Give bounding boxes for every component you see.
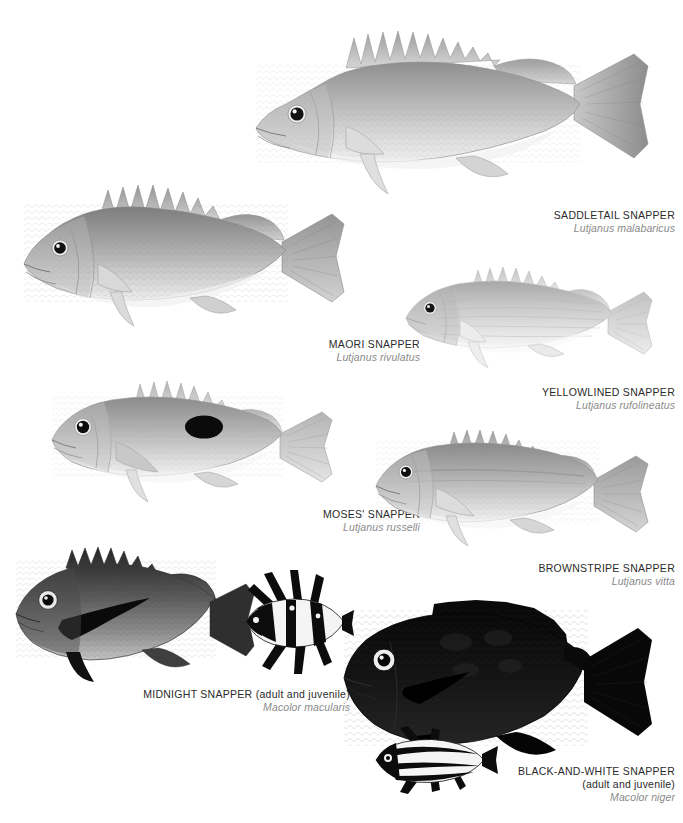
label-midnight-snapper: MIDNIGHT SNAPPER (adult and juvenile) Ma… xyxy=(60,688,350,714)
label-brownstripe-snapper: BROWNSTRIPE SNAPPER Lutjanus vitta xyxy=(415,562,675,588)
common-name-saddletail-snapper: SADDLETAIL SNAPPER xyxy=(415,209,675,222)
common-name-yellowlined-snapper: YELLOWLINED SNAPPER xyxy=(415,386,675,399)
scientific-name-midnight-snapper: Macolor macularis xyxy=(60,701,350,714)
flank-spot-moses-snapper xyxy=(185,416,223,439)
common-name-midnight-snapper: MIDNIGHT SNAPPER (adult and juvenile) xyxy=(60,688,350,701)
fish-illustration-yellowlined-snapper xyxy=(400,256,668,376)
label-saddletail-snapper: SADDLETAIL SNAPPER Lutjanus malabaricus xyxy=(415,209,675,235)
label-yellowlined-snapper: YELLOWLINED SNAPPER Lutjanus rufolineatu… xyxy=(415,386,675,412)
common-name-brownstripe-snapper: BROWNSTRIPE SNAPPER xyxy=(415,562,675,575)
scientific-name-yellowlined-snapper: Lutjanus rufolineatus xyxy=(415,399,675,412)
label-black-and-white-snapper: BLACK-AND-WHITE SNAPPER (adult and juven… xyxy=(395,765,675,804)
fish-illustration-maori-snapper xyxy=(18,172,368,332)
label-maori-snapper: MAORI SNAPPER Lutjanus rivulatus xyxy=(160,338,420,364)
fish-illustration-brownstripe-snapper xyxy=(370,422,670,552)
fish-identification-plate: SADDLETAIL SNAPPER Lutjanus malabaricus xyxy=(0,0,683,823)
fish-illustration-moses-snapper xyxy=(46,372,358,512)
common-name-maori-snapper: MAORI SNAPPER xyxy=(160,338,420,351)
scientific-name-maori-snapper: Lutjanus rivulatus xyxy=(160,351,420,364)
qualifier-black-and-white-snapper: (adult and juvenile) xyxy=(395,778,675,791)
scientific-name-black-and-white-snapper: Macolor niger xyxy=(395,791,675,804)
fish-illustration-midnight-snapper-adult xyxy=(10,542,270,692)
common-name-black-and-white-snapper: BLACK-AND-WHITE SNAPPER xyxy=(395,765,675,778)
scientific-name-saddletail-snapper: Lutjanus malabaricus xyxy=(415,222,675,235)
